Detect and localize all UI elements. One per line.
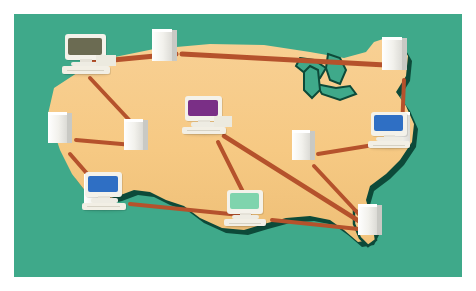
- box-top: [152, 29, 172, 32]
- node-computer-central[interactable]: Central workstation: [182, 96, 230, 140]
- box-top: [124, 119, 143, 122]
- box-side: [67, 113, 72, 143]
- node-server-midwest[interactable]: Midwest server: [292, 130, 310, 160]
- node-computer-gulf-coast[interactable]: Gulf Coast workstation: [224, 190, 270, 232]
- keyboard-keys: [67, 70, 103, 71]
- box-face: [382, 37, 402, 70]
- box-face: [152, 29, 172, 61]
- box-face: [124, 119, 143, 150]
- illustration-canvas: Pacific Northwest workstation Northern P…: [0, 0, 476, 291]
- node-server-florida[interactable]: Florida server: [358, 204, 377, 235]
- node-computer-southwest[interactable]: Southwest workstation: [82, 172, 130, 216]
- node-computer-pacific-northwest[interactable]: Pacific Northwest workstation: [62, 34, 114, 80]
- node-server-northeast[interactable]: Northeast server: [382, 37, 402, 70]
- node-server-northern-plains[interactable]: Northern Plains server: [152, 29, 172, 61]
- box-face: [358, 204, 377, 235]
- box-top: [358, 204, 377, 207]
- monitor-screen: [68, 38, 101, 55]
- map-scene: Pacific Northwest workstation Northern P…: [14, 14, 462, 277]
- computer-case: [214, 116, 232, 127]
- box-face: [292, 130, 310, 160]
- box-top: [48, 112, 67, 115]
- box-top: [292, 130, 310, 133]
- lake-michigan: [304, 66, 320, 98]
- box-side: [143, 120, 148, 150]
- box-side: [377, 205, 382, 235]
- keyboard-keys: [87, 206, 121, 207]
- node-computer-atlantic-seaboard[interactable]: Atlantic seaboard workstation: [368, 112, 414, 154]
- keyboard-keys: [187, 130, 221, 131]
- box-face: [48, 112, 67, 143]
- box-side: [310, 131, 315, 160]
- node-server-west-coast[interactable]: West Coast server: [48, 112, 67, 143]
- box-top: [382, 37, 402, 40]
- monitor-screen: [230, 193, 259, 209]
- box-side: [402, 38, 407, 70]
- computer-case: [96, 55, 116, 66]
- keyboard-keys: [229, 223, 261, 224]
- box-side: [172, 30, 177, 61]
- node-server-rocky-mountain[interactable]: Rocky Mountain server: [124, 119, 143, 150]
- monitor-screen: [88, 176, 119, 193]
- monitor-screen: [374, 115, 403, 131]
- keyboard-keys: [373, 145, 405, 146]
- monitor-screen: [188, 100, 219, 117]
